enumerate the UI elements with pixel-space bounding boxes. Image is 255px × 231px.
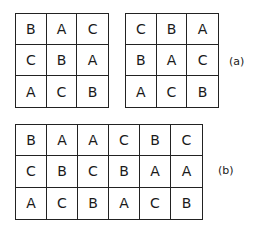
grid-cell: B [16, 125, 47, 156]
grid-cell: C [140, 188, 171, 219]
grid-cell: C [16, 45, 47, 76]
grid-cell: A [16, 188, 47, 219]
grid-cell: A [78, 125, 109, 156]
latin-rectangle-b: BAACBCCBCBAAACBACB [15, 124, 203, 220]
grid-cell: C [171, 125, 202, 156]
grid-cell: B [187, 76, 218, 107]
grid-cell: B [126, 45, 157, 76]
grid-cell: A [16, 76, 47, 107]
latin-square-a-left: BACCBAACB [15, 13, 109, 108]
grid-cell: C [126, 14, 157, 45]
grid-cell: B [47, 45, 78, 76]
grid-cell: C [157, 76, 188, 107]
grid-cell: A [171, 156, 202, 187]
grid-cell: A [47, 125, 78, 156]
grid-cell: B [77, 76, 108, 107]
latin-square-a-right: CBABACACB [125, 13, 219, 108]
grid-cell: C [16, 156, 47, 187]
grid-cell: B [78, 188, 109, 219]
grid-cell: C [78, 156, 109, 187]
grid-cell: A [47, 14, 78, 45]
figure-b-label: (b) [218, 164, 234, 177]
grid-cell: C [77, 14, 108, 45]
grid-cell: C [187, 45, 218, 76]
grid-cell: B [47, 156, 78, 187]
grid-cell: A [157, 45, 188, 76]
grid-cell: A [109, 188, 140, 219]
grid-cell: B [109, 156, 140, 187]
grid-cell: A [126, 76, 157, 107]
grid-cell: A [140, 156, 171, 187]
figure-a-label: (a) [229, 55, 244, 68]
grid-cell: B [157, 14, 188, 45]
grid-cell: C [47, 76, 78, 107]
grid-cell: A [187, 14, 218, 45]
grid-cell: B [171, 188, 202, 219]
grid-cell: A [77, 45, 108, 76]
grid-cell: B [140, 125, 171, 156]
grid-cell: C [47, 188, 78, 219]
grid-cell: B [16, 14, 47, 45]
grid-cell: C [109, 125, 140, 156]
